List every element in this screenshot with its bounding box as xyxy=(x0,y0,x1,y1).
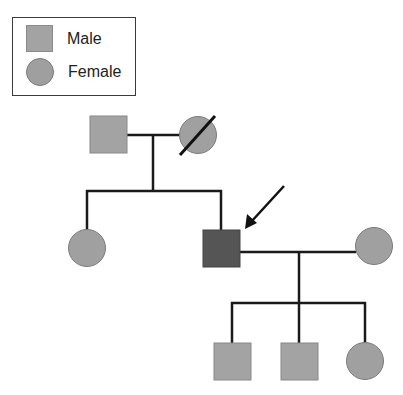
proband-arrow-icon xyxy=(245,186,284,229)
pedigree-chart xyxy=(0,0,403,395)
individual-II-2-proband-affected-male[interactable] xyxy=(203,230,240,267)
individual-I-1-male[interactable] xyxy=(90,116,127,153)
individual-III-3-female[interactable] xyxy=(347,343,384,380)
individual-II-1-female[interactable] xyxy=(69,230,106,267)
individual-II-3-female-spouse[interactable] xyxy=(356,228,393,265)
individual-III-2-male[interactable] xyxy=(281,343,318,380)
individual-III-1-male[interactable] xyxy=(214,343,251,380)
